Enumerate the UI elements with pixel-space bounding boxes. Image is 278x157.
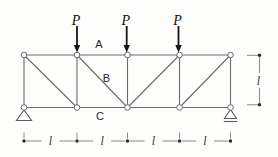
load-arrowhead <box>124 45 130 53</box>
load-arrowhead <box>74 45 80 53</box>
right-dimension: l <box>247 54 261 107</box>
truss-member-T4-B3 <box>180 55 231 108</box>
dim-point <box>126 139 129 142</box>
truss-node-B0 <box>21 105 27 111</box>
truss-node-T2 <box>125 52 131 58</box>
load-1: P <box>71 13 81 53</box>
pin-support-triangle <box>17 110 32 121</box>
load-label: P <box>71 13 81 28</box>
truss-node-B2 <box>125 105 131 111</box>
load-arrowhead <box>175 45 181 53</box>
pin-support <box>17 110 32 121</box>
truss-member-T3-B2 <box>128 55 180 108</box>
truss-node-B1 <box>74 105 80 111</box>
top-chord-label: A <box>95 38 103 50</box>
load-2: P <box>120 13 130 53</box>
truss-node-T4 <box>228 52 234 58</box>
span-length-label: l <box>101 134 105 148</box>
truss-node-B4 <box>228 105 234 111</box>
roller-support-triangle <box>225 110 237 119</box>
dim-point <box>229 139 232 142</box>
truss-node-B3 <box>177 105 183 111</box>
load-label: P <box>172 13 182 28</box>
diagonal-label: B <box>103 72 110 84</box>
bottom-chord-label: C <box>96 110 104 122</box>
dim-point <box>258 103 261 106</box>
load-3: P <box>172 13 182 53</box>
span-length-label: l <box>49 134 53 148</box>
span-length-label: l <box>152 134 156 148</box>
truss-node-T3 <box>177 52 183 58</box>
roller-support <box>224 110 238 122</box>
dim-point <box>75 139 78 142</box>
truss-members <box>24 55 231 108</box>
dim-point <box>258 54 261 57</box>
span-length-label: l <box>203 134 207 148</box>
truss-figure: PPPABClllll <box>0 0 278 157</box>
truss-diagram-svg: PPPABClllll <box>0 0 278 157</box>
load-label: P <box>120 13 130 28</box>
truss-node-T1 <box>74 52 80 58</box>
height-label: l <box>257 74 261 88</box>
truss-member-T0-B1 <box>24 55 77 108</box>
dim-point <box>22 139 25 142</box>
truss-node-T0 <box>21 52 27 58</box>
bottom-dimension: llll <box>22 133 232 148</box>
dim-point <box>178 139 181 142</box>
